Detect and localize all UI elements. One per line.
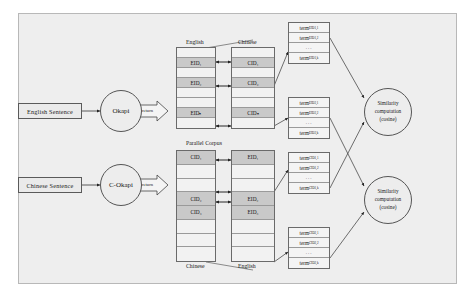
term-cell-ellipsis: ...	[289, 43, 329, 53]
c-okapi-label: C-Okapi	[109, 181, 133, 189]
term-column-eid2[interactable]: termEID2,1termEID2,2...termEID2,k	[288, 97, 330, 139]
id-column-english-bottom[interactable]: EID₁EID₂EID₃	[231, 150, 275, 262]
id-cell-empty	[232, 68, 274, 78]
term-cell[interactable]: termEID1,2	[289, 33, 329, 43]
id-cell[interactable]: EID₂	[232, 192, 274, 206]
id-cell-empty	[177, 48, 215, 58]
id-cell-empty	[232, 179, 274, 193]
id-column-chinese-top[interactable]: CID₁CID₂CIDₙ	[231, 47, 275, 129]
id-cell[interactable]: CID₁	[232, 58, 274, 68]
arrow-eid-to-term-group-3	[274, 170, 288, 192]
id-column-chinese-bottom[interactable]: CID₁CID₂CID₃	[176, 150, 216, 262]
term-cell[interactable]: termEID1,1	[289, 23, 329, 33]
english-sentence-label: English Sentence	[27, 108, 73, 115]
id-cell[interactable]: EID₁	[177, 58, 215, 68]
similarity-top-line3: (cosine)	[379, 116, 396, 124]
column-header-english-top: English	[186, 39, 204, 45]
okapi-label: Okapi	[112, 107, 129, 115]
similarity-computation-top[interactable]: Similarity computation (cosine)	[364, 88, 412, 136]
similarity-top-line2: computation	[375, 108, 401, 116]
arrow-cid-to-term-group-1	[274, 52, 288, 86]
english-sentence-box[interactable]: English Sentence	[18, 103, 82, 119]
okapi-node[interactable]: Okapi	[100, 90, 142, 132]
term-column-eid1[interactable]: termEID1,1termEID1,2...termEID1,k	[288, 22, 330, 64]
id-cell-empty	[177, 68, 215, 78]
term-cell[interactable]: termCID2,2	[289, 238, 329, 248]
id-cell-empty	[232, 118, 274, 128]
term-cell[interactable]: termCID1,k	[289, 183, 329, 193]
id-cell-empty	[177, 165, 215, 179]
column-header-chinese-bottom: Chinese	[186, 263, 205, 269]
c-okapi-node[interactable]: C-Okapi	[100, 164, 142, 206]
arrow-cid-to-term-group-2	[274, 118, 288, 126]
similarity-bottom-line2: computation	[375, 196, 401, 204]
term-cell[interactable]: termEID2,k	[289, 128, 329, 138]
similarity-bottom-line1: Similarity	[377, 188, 398, 196]
term-cell-ellipsis: ...	[289, 173, 329, 183]
id-cell-empty	[177, 98, 215, 108]
arrow-term1-to-sim-top	[330, 38, 364, 98]
pair-links-bottom	[216, 160, 231, 202]
term-column-cid1[interactable]: termCID1,1termCID1,2...termCID1,k	[288, 152, 330, 194]
similarity-top-line1: Similarity	[377, 100, 398, 108]
column-header-english-bottom: English	[238, 263, 256, 269]
id-cell[interactable]: CID₃	[177, 206, 215, 220]
id-cell[interactable]: CID₂	[177, 192, 215, 206]
term-cell[interactable]: termCID2,k	[289, 258, 329, 268]
id-column-english-top[interactable]: EID₁EID₂EIDₙ	[176, 47, 216, 129]
id-cell-empty	[177, 179, 215, 193]
id-cell[interactable]: CIDₙ	[232, 108, 274, 118]
pair-links-top	[216, 62, 231, 126]
term-cell[interactable]: termEID2,2	[289, 108, 329, 118]
diagram-canvas: English Sentence Chinese Sentence Okapi …	[0, 0, 475, 296]
term-column-cid2[interactable]: termCID2,1termCID2,2...termCID2,k	[288, 227, 330, 269]
arrow-term4-to-sim-bottom	[330, 212, 364, 258]
id-cell-empty	[232, 48, 274, 58]
id-cell[interactable]: EID₁	[232, 151, 274, 165]
id-cell[interactable]: EIDₙ	[177, 108, 215, 118]
similarity-bottom-line3: (cosine)	[379, 204, 396, 212]
term-cell[interactable]: termEID1,k	[289, 53, 329, 63]
id-cell[interactable]: EID₂	[177, 78, 215, 88]
chinese-sentence-label: Chinese Sentence	[26, 182, 73, 189]
arrow-term2-to-sim-bottom	[330, 118, 364, 186]
id-cell-empty	[232, 220, 274, 234]
id-cell-empty	[232, 88, 274, 98]
term-cell[interactable]: termCID1,2	[289, 163, 329, 173]
id-cell-empty	[177, 118, 215, 128]
term-cell-ellipsis: ...	[289, 118, 329, 128]
id-cell-empty	[177, 234, 215, 248]
return-label-bottom: return	[142, 182, 153, 187]
column-header-chinese-top: Chinese	[238, 39, 257, 45]
id-cell-empty	[177, 247, 215, 261]
id-cell-empty	[232, 165, 274, 179]
arrow-eid-to-term-group-4	[274, 252, 288, 262]
id-cell-empty	[232, 98, 274, 108]
id-cell[interactable]: CID₁	[177, 151, 215, 165]
parallel-corpus-label: Parallel Corpus	[186, 140, 222, 146]
chinese-sentence-box[interactable]: Chinese Sentence	[18, 177, 82, 193]
id-cell-empty	[177, 88, 215, 98]
similarity-computation-bottom[interactable]: Similarity computation (cosine)	[364, 176, 412, 224]
return-label-top: return	[142, 108, 153, 113]
arrow-term3-to-sim-top	[330, 122, 364, 188]
term-cell[interactable]: termCID2,1	[289, 228, 329, 238]
id-cell-empty	[177, 220, 215, 234]
id-cell-empty	[232, 234, 274, 248]
id-cell[interactable]: CID₂	[232, 78, 274, 88]
id-cell-empty	[232, 247, 274, 261]
term-cell-ellipsis: ...	[289, 248, 329, 258]
id-cell[interactable]: EID₃	[232, 206, 274, 220]
term-cell[interactable]: termEID2,1	[289, 98, 329, 108]
term-cell[interactable]: termCID1,1	[289, 153, 329, 163]
